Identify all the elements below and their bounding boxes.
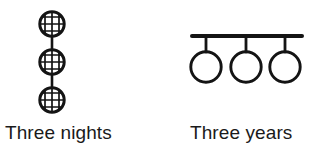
three-stacked-hatched-circles-icon: [26, 8, 80, 118]
caption-three-nights: Three nights: [5, 122, 112, 144]
three-circles-hanging-from-bar-icon: [184, 26, 312, 92]
glyph-area-three-years: [162, 0, 325, 118]
glyph-area-three-nights: [0, 0, 163, 118]
caption-three-years: Three years: [190, 122, 292, 144]
panel-three-nights: Three nights: [0, 0, 163, 154]
panel-three-years: Three years: [162, 0, 325, 154]
figure-root: Three nights Three years: [0, 0, 325, 154]
